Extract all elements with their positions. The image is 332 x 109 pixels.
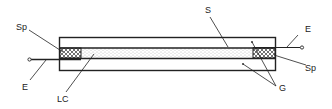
lc-cell-diagram: Sp E LC S E Sp G: [0, 0, 332, 109]
label-s: S: [205, 5, 211, 15]
liquid-crystal-layer: [81, 48, 253, 58]
label-g: G: [279, 83, 286, 93]
label-lc: LC: [57, 94, 69, 104]
label-e-right: E: [305, 24, 311, 34]
label-sp-right: Sp: [305, 63, 316, 73]
g-lower-marker: [242, 63, 244, 65]
label-e-left: E: [22, 82, 28, 92]
g-upper-marker: [251, 41, 253, 43]
label-sp-left: Sp: [16, 22, 27, 32]
spacer-left: [60, 48, 81, 58]
